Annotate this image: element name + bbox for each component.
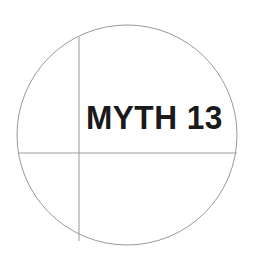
myth-label: MYTH 13 [86, 99, 212, 135]
figure-canvas: MYTH 13 [0, 0, 256, 270]
